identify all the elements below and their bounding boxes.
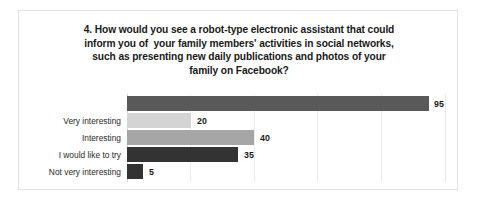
bar-3 bbox=[127, 130, 254, 145]
axis-label-not-very-interesting: Not very interesting bbox=[31, 167, 121, 177]
axis-label-very-interesting: Very interesting bbox=[31, 116, 121, 126]
bar-value-2: 20 bbox=[197, 116, 207, 126]
category-axis: Very interesting Interesting I would lik… bbox=[31, 94, 121, 182]
bar-2 bbox=[127, 113, 191, 128]
bar-4 bbox=[127, 147, 238, 162]
plot-area: 95 20 40 35 5 bbox=[127, 94, 446, 182]
axis-label-interesting: Interesting bbox=[31, 133, 121, 143]
bar-chart: Very interesting Interesting I would lik… bbox=[31, 94, 446, 182]
chart-title-line-3: such as presenting new daily publication… bbox=[27, 50, 451, 64]
chart-title-line-2: inform you of your family members' activ… bbox=[27, 37, 451, 51]
bar-5 bbox=[127, 164, 143, 179]
bar-value-3: 40 bbox=[260, 133, 270, 143]
chart-card: 4. How would you see a robot-type electr… bbox=[18, 10, 458, 190]
axis-label-i-would-like-to-try: I would like to try bbox=[31, 150, 121, 160]
chart-title: 4. How would you see a robot-type electr… bbox=[27, 23, 451, 77]
bar-value-4: 35 bbox=[244, 150, 254, 160]
bar-value-5: 5 bbox=[149, 167, 154, 177]
chart-title-line-1: 4. How would you see a robot-type electr… bbox=[27, 23, 451, 37]
bar-1 bbox=[127, 96, 429, 111]
bar-value-1: 95 bbox=[434, 99, 444, 109]
chart-title-line-4: family on Facebook? bbox=[27, 64, 451, 78]
